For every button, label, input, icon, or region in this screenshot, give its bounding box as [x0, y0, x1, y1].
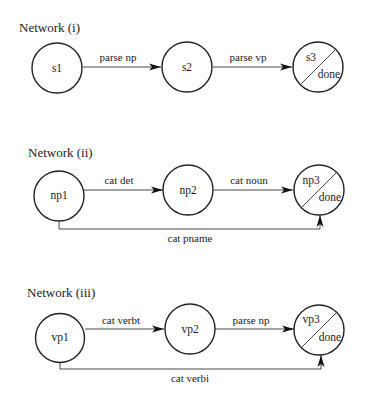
edge-label-np1-np2: cat det: [104, 174, 133, 186]
edge-label-s2-s3: parse vp: [230, 51, 267, 63]
edge-label-np1-np3: cat pname: [168, 232, 213, 244]
edge-vp1-vp3-bypass: [60, 355, 321, 369]
node-label-s3: s3: [306, 51, 316, 63]
network-i-title: Network (i): [19, 20, 80, 35]
node-label-s2: s2: [182, 61, 192, 73]
network-i: Network (i) parse np parse vp s1 s2 s3 d…: [19, 20, 343, 93]
node-label-np3: np3: [302, 174, 320, 187]
node-final-label-s3: done: [318, 68, 340, 80]
network-iii: Network (iii) cat verbt parse np cat ver…: [27, 285, 344, 384]
edge-np1-np3-bypass: [59, 215, 320, 229]
node-label-vp1: vp1: [51, 331, 69, 344]
node-label-np2: np2: [179, 184, 197, 197]
node-label-vp3: vp3: [302, 313, 320, 326]
edge-label-vp1-vp2: cat verbt: [102, 314, 140, 326]
edge-label-vp2-vp3: parse np: [233, 314, 270, 326]
node-label-np1: np1: [50, 189, 68, 202]
network-ii-title: Network (ii): [28, 145, 93, 160]
network-iii-title: Network (iii): [27, 285, 95, 300]
network-ii: Network (ii) cat det cat noun cat pname …: [28, 145, 344, 244]
edge-label-np2-np3: cat noun: [230, 174, 268, 186]
edge-label-s1-s2: parse np: [100, 51, 137, 63]
edge-label-vp1-vp3: cat verbi: [171, 372, 209, 384]
node-final-label-np3: done: [319, 191, 341, 203]
node-label-vp2: vp2: [181, 323, 199, 336]
node-label-s1: s1: [52, 62, 62, 74]
node-final-label-vp3: done: [319, 331, 341, 343]
transition-networks-diagram: Network (i) parse np parse vp s1 s2 s3 d…: [0, 0, 371, 394]
